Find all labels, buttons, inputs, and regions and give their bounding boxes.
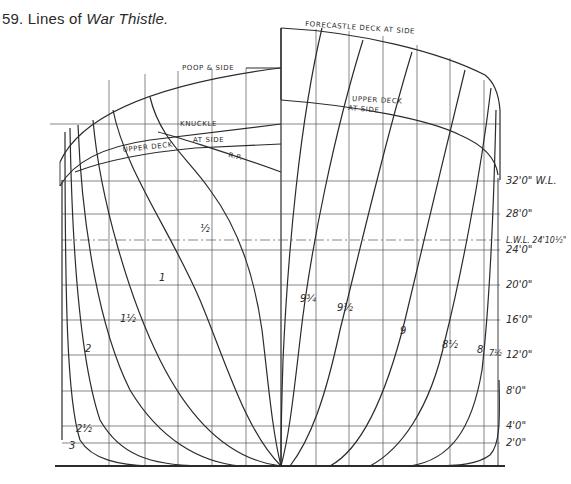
body-plan-drawing: POOP & SIDE FORECASTLE DECK AT SIDE KNUC… <box>0 0 571 484</box>
at-side-right-label: AT SIDE <box>348 104 380 115</box>
wl-2-label: 2'0" <box>506 437 526 448</box>
station-1-label: 1 <box>159 272 165 283</box>
station-2-5-label: 2½ <box>76 423 92 434</box>
poop-side-label: POOP & SIDE <box>182 64 234 72</box>
station-9-label: 9 <box>400 325 406 336</box>
station-8-label: 8 <box>477 344 483 355</box>
forecastle-deck-label: FORECASTLE DECK AT SIDE <box>305 20 415 36</box>
vertical-grid-lines <box>109 28 484 466</box>
station-7-5-label: 7½ <box>489 349 502 358</box>
waterline-labels: 32'0" W.L. 28'0" L.W.L. 24'10½" 24'0" 20… <box>506 175 566 448</box>
station-2-label: 2 <box>85 343 91 354</box>
wl-28-label: 28'0" <box>506 208 532 219</box>
station-1-5-label: 1½ <box>120 313 136 324</box>
waterline-grid <box>50 124 505 466</box>
wl-4-label: 4'0" <box>506 420 526 431</box>
wl-16-label: 16'0" <box>506 314 532 325</box>
fore-station-curves <box>281 28 499 466</box>
station-8-5-label: 8½ <box>442 339 458 350</box>
station-9-5-label: 9½ <box>337 302 353 313</box>
wl-32-label: 32'0" W.L. <box>506 175 557 186</box>
wl-20-label: 20'0" <box>506 279 532 290</box>
station-labels: ½ 1 1½ 2 2½ 3 9¾ 9½ 9 8½ 8 7½ <box>69 223 502 451</box>
upper-deck-left-label: UPPER DECK <box>122 141 173 154</box>
aft-station-curves <box>65 97 281 466</box>
wl-12-label: 12'0" <box>506 349 532 360</box>
at-side-left-label: AT SIDE <box>193 136 224 144</box>
station-half-label: ½ <box>200 223 210 234</box>
station-3-label: 3 <box>69 440 75 451</box>
wl-24-label: 24'0" <box>506 244 532 255</box>
rp-label: R.P. <box>228 151 244 162</box>
knuckle-label: KNUCKLE <box>180 120 217 128</box>
station-9-75-label: 9¾ <box>300 293 316 304</box>
wl-8-label: 8'0" <box>506 385 526 396</box>
